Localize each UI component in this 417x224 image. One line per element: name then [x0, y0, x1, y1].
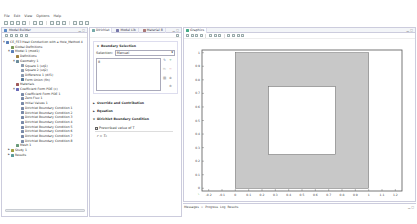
transparency-icon[interactable] — [232, 34, 235, 37]
x-tick-label: -0.1 — [219, 193, 225, 197]
selection-dropdown[interactable]: Manual ▼ — [115, 50, 175, 56]
pan-icon[interactable] — [214, 34, 217, 37]
tab-progress[interactable]: Progress — [205, 205, 218, 209]
screenshot-icon[interactable] — [237, 34, 240, 37]
value-expression[interactable]: r = T₀ — [97, 134, 181, 138]
show-icon[interactable] — [15, 34, 18, 37]
menu-help[interactable]: Help — [53, 14, 61, 19]
model-builder-panel: Model Builder ▁ ▢ ▲CE_FE3 Heat Conductio… — [1, 27, 88, 217]
expand-icon[interactable] — [25, 34, 28, 37]
collapse-arrow-icon[interactable]: ▲ — [13, 59, 15, 64]
back-icon[interactable] — [5, 34, 8, 37]
collapse-icon[interactable] — [20, 34, 23, 37]
print-icon[interactable] — [241, 34, 244, 37]
section-title: Boundary Selection — [101, 44, 136, 48]
select-icon[interactable] — [79, 21, 83, 25]
tab-model-library[interactable]: Model Lib — [114, 28, 138, 33]
zoom-icon[interactable] — [85, 21, 89, 25]
selection-list-row: 8 ✎ + ⎘ − ▤ ⊗ ⊕ — [96, 58, 175, 91]
section-override[interactable]: ▶ Override and Contribution — [90, 99, 181, 107]
menu-edit[interactable]: Edit — [14, 14, 21, 19]
tab-log[interactable]: Log — [220, 205, 225, 209]
tab-material-browser[interactable]: Material B — [141, 28, 166, 33]
paste-icon[interactable] — [56, 21, 60, 25]
tab-results[interactable]: Results — [227, 205, 238, 209]
node-icon — [21, 97, 24, 100]
add-icon[interactable]: + — [169, 58, 173, 65]
open-icon[interactable] — [10, 21, 14, 25]
section-dirichlet[interactable]: ▼ Dirichlet Boundary Condition — [90, 115, 181, 123]
section-header[interactable]: ▼ Boundary Selection — [96, 44, 175, 48]
zoom-box-icon[interactable] — [195, 34, 198, 37]
selection-list-item[interactable]: 8 — [98, 60, 100, 64]
settings-menu-icon[interactable] — [176, 34, 179, 37]
minimize-icon[interactable]: ▁ ▢ — [79, 28, 85, 32]
x-tick-label: 0.7 — [326, 193, 331, 197]
horizontal-scrollbar[interactable] — [5, 209, 85, 212]
model-builder-icon — [4, 29, 7, 32]
node-icon — [21, 130, 24, 133]
copy-icon[interactable] — [50, 21, 54, 25]
new-icon[interactable] — [4, 21, 8, 25]
redo-icon[interactable] — [39, 21, 43, 25]
difference-icon — [21, 74, 24, 77]
tab-dirichlet[interactable]: Dirichlet — [90, 28, 112, 33]
section-title: Dirichlet Boundary Condition — [97, 117, 149, 121]
close-icon[interactable]: × — [201, 205, 204, 209]
selection-value: Manual — [117, 51, 129, 55]
model-wizard-icon[interactable] — [73, 21, 77, 25]
delete-icon[interactable] — [62, 21, 66, 25]
model-icon — [6, 41, 9, 44]
remove-icon[interactable]: − — [169, 67, 173, 74]
render-icon[interactable] — [227, 34, 230, 37]
section-title: Equation — [97, 109, 113, 113]
zoom-to-selection-icon[interactable]: ⊕ — [169, 84, 173, 91]
square-icon — [21, 69, 24, 72]
collapse-arrow-icon[interactable]: ▲ — [3, 40, 5, 45]
minimize-icon[interactable]: ▁ ▢ — [408, 205, 416, 209]
clear-selection-icon[interactable]: ⊗ — [169, 76, 173, 83]
tree-node-label: Dirichlet Boundary Condition 8 — [25, 139, 73, 144]
y-tick-label: 0.3 — [195, 146, 200, 150]
menu-file[interactable]: File — [4, 14, 10, 19]
x-tick-label: 1.2 — [393, 193, 398, 197]
activate-selection-icon[interactable]: ✎ — [163, 58, 167, 65]
section-title: Override and Contribution — [97, 101, 144, 105]
menu-view[interactable]: View — [24, 14, 32, 19]
select-icon[interactable] — [209, 34, 212, 37]
zoom-out-icon[interactable] — [191, 34, 194, 37]
collapse-arrow-icon[interactable]: ▲ — [13, 87, 15, 92]
tab-messages[interactable]: Messages — [184, 205, 199, 209]
minimize-icon[interactable]: ▁ ▢ — [407, 28, 415, 32]
node-icon — [21, 121, 24, 124]
undo-icon[interactable] — [33, 21, 37, 25]
node-icon — [21, 107, 24, 110]
rotate-icon[interactable] — [218, 34, 221, 37]
minimize-icon[interactable]: ▁ ▢ — [173, 28, 181, 32]
tree-node-label: Results — [15, 153, 26, 158]
tab-graphics[interactable]: Graphics — [184, 28, 207, 33]
prescribed-value-checkbox[interactable]: ✓ — [95, 127, 98, 130]
selection-list[interactable]: 8 — [96, 58, 161, 91]
graphics-icon — [186, 29, 189, 32]
x-tick-label: 0.6 — [313, 193, 318, 197]
expand-arrow-icon[interactable]: ▶ — [8, 153, 10, 158]
geometry-plot[interactable]: -0.2-0.100.10.20.30.40.50.60.70.80.911.1… — [184, 40, 417, 203]
bottom-tabs: Messages × Progress Log Results ▁ ▢ — [183, 203, 416, 209]
menu-options[interactable]: Options — [36, 14, 49, 19]
zoom-extents-icon[interactable] — [200, 34, 203, 37]
collapse-arrow-icon: ▼ — [97, 45, 99, 48]
y-tick-label: 1 — [198, 51, 200, 55]
copy-selection-icon[interactable]: ⎘ — [163, 67, 167, 74]
tree-node[interactable]: ▶Results — [3, 153, 86, 158]
checkbox-label: Prescribed value of T — [99, 126, 135, 130]
save-icon[interactable] — [16, 21, 20, 25]
section-equation[interactable]: ▶ Equation — [90, 107, 181, 115]
paste-selection-icon[interactable]: ▤ — [163, 76, 167, 83]
print-icon[interactable] — [22, 21, 26, 25]
collapse-arrow-icon[interactable]: ▲ — [8, 49, 10, 54]
inner-hole[interactable] — [269, 87, 336, 155]
x-tick-label: 0.9 — [353, 193, 358, 197]
zoom-in-icon[interactable] — [186, 34, 189, 37]
forward-icon[interactable] — [10, 34, 13, 37]
